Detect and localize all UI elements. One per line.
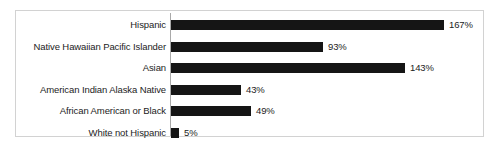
value-label: 167%: [449, 19, 473, 31]
category-label: Native Hawaiian Pacific Islander: [0, 41, 171, 53]
value-label: 43%: [246, 84, 265, 96]
bar-row: White not Hispanic 5%: [16, 124, 483, 142]
value-label: 49%: [256, 105, 275, 117]
chart-frame: Hispanic 167% Native Hawaiian Pacific Is…: [15, 10, 484, 137]
category-label: African American or Black: [0, 105, 171, 117]
bar-row: African American or Black 49%: [16, 102, 483, 120]
bar: [171, 85, 241, 95]
category-label: Hispanic: [0, 19, 171, 31]
bar-row: Hispanic 167%: [16, 16, 483, 34]
bar: [171, 63, 405, 73]
value-label: 143%: [410, 62, 434, 74]
category-label: American Indian Alaska Native: [0, 84, 171, 96]
bar-row: Asian 143%: [16, 59, 483, 77]
category-label: White not Hispanic: [0, 127, 171, 139]
bar: [171, 106, 251, 116]
category-label: Asian: [0, 62, 171, 74]
value-label: 93%: [328, 41, 347, 53]
plot-area: Hispanic 167% Native Hawaiian Pacific Is…: [16, 11, 483, 136]
bar: [171, 128, 179, 138]
bar-row: American Indian Alaska Native 43%: [16, 81, 483, 99]
value-label: 5%: [184, 127, 198, 139]
bar: [171, 42, 323, 52]
bar-row: Native Hawaiian Pacific Islander 93%: [16, 38, 483, 56]
bar: [171, 20, 444, 30]
